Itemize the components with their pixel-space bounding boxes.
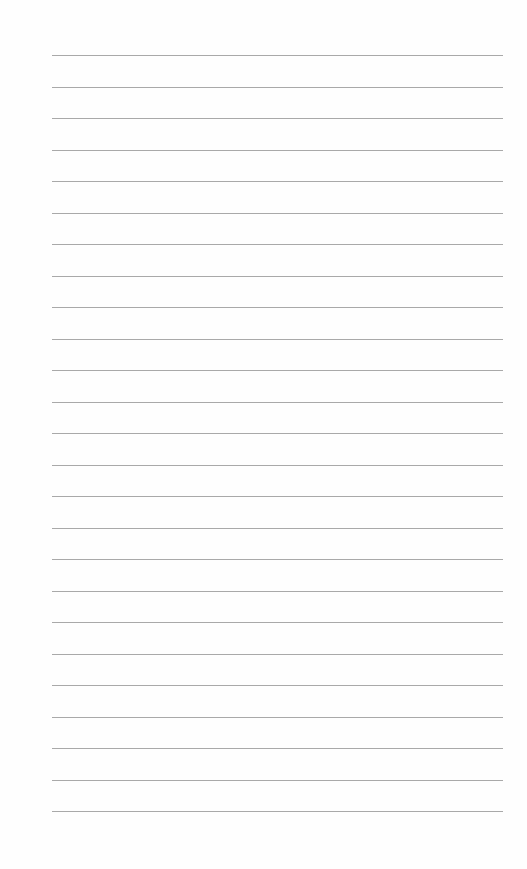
lined-paper-page xyxy=(0,0,527,869)
ruled-line xyxy=(52,591,503,592)
ruled-line xyxy=(52,465,503,466)
ruled-line xyxy=(52,654,503,655)
ruled-line xyxy=(52,87,503,88)
ruled-line xyxy=(52,55,503,56)
ruled-line xyxy=(52,339,503,340)
ruled-line xyxy=(52,244,503,245)
ruled-line xyxy=(52,528,503,529)
ruled-line xyxy=(52,181,503,182)
ruled-line xyxy=(52,748,503,749)
ruled-line xyxy=(52,276,503,277)
ruled-line xyxy=(52,811,503,812)
ruled-line xyxy=(52,433,503,434)
ruled-line xyxy=(52,685,503,686)
ruled-line xyxy=(52,370,503,371)
ruled-line xyxy=(52,496,503,497)
ruled-line xyxy=(52,307,503,308)
ruled-line xyxy=(52,780,503,781)
ruled-line xyxy=(52,717,503,718)
ruled-line xyxy=(52,213,503,214)
ruled-line xyxy=(52,150,503,151)
ruled-line xyxy=(52,622,503,623)
ruled-line xyxy=(52,402,503,403)
ruled-line xyxy=(52,559,503,560)
ruled-line xyxy=(52,118,503,119)
